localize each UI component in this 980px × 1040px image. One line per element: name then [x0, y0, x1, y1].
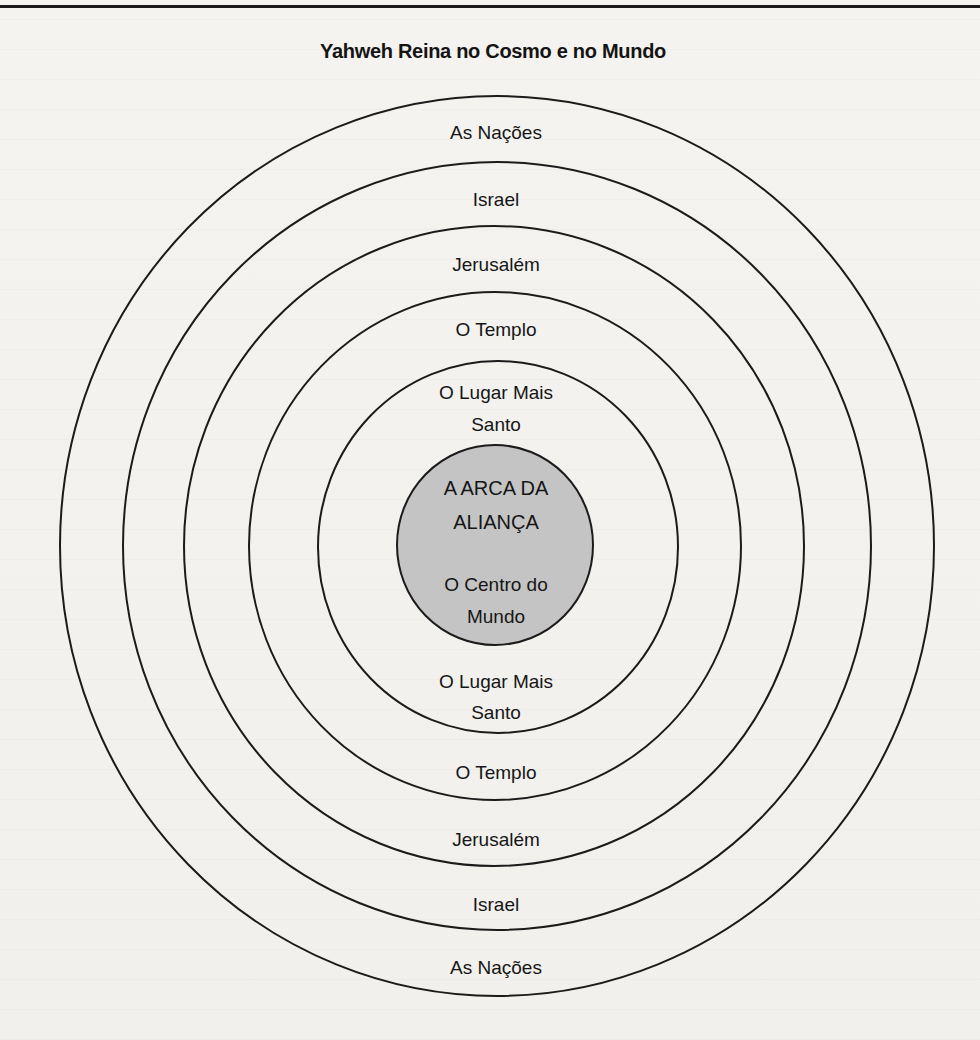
label-jerusalem-bottom: Jerusalém [0, 824, 980, 856]
label-holiest-top-line2: Santo [0, 409, 980, 441]
label-israel-bottom: Israel [0, 889, 980, 921]
label-temple-bottom: O Templo [0, 757, 980, 789]
label-ark-line2: ALIANÇA [0, 506, 980, 538]
label-center-line1: O Centro do [0, 569, 980, 601]
label-israel-top: Israel [0, 184, 980, 216]
label-holiest-bottom-line2: Santo [0, 697, 980, 729]
label-center-line2: Mundo [0, 601, 980, 633]
label-jerusalem-top: Jerusalém [0, 249, 980, 281]
label-ark-line1: A ARCA DA [0, 472, 980, 504]
label-nations-top: As Nações [0, 117, 980, 149]
label-nations-bottom: As Nações [0, 952, 980, 984]
label-holiest-top-line1: O Lugar Mais [0, 377, 980, 409]
label-temple-top: O Templo [0, 314, 980, 346]
label-holiest-bottom-line1: O Lugar Mais [0, 666, 980, 698]
